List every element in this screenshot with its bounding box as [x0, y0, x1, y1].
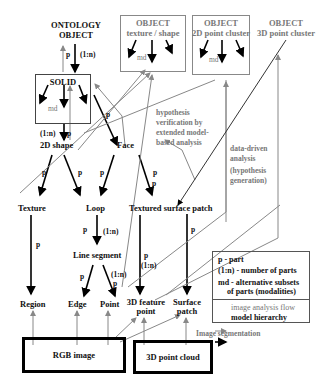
edge-label-p: p — [83, 225, 87, 235]
legend-1n: (1:n) - number of parts — [218, 266, 297, 276]
node-object-texture-line1: OBJECT — [120, 18, 186, 28]
annotation-data-driven-line4: generation) — [230, 176, 267, 186]
md-label: md — [48, 104, 58, 114]
node-ontology-object-line1: ONTOLOGY — [37, 20, 115, 30]
edge-label-1n: (1:n) — [141, 261, 156, 271]
node-ontology-object-line2: OBJECT — [37, 30, 115, 40]
annotation-data-driven-line3: (hypothesis — [230, 166, 266, 176]
node-3d-point-cloud-label: 3D point cloud — [136, 352, 210, 362]
edge-label-p: p — [113, 279, 117, 289]
edge-label-p: p — [42, 168, 46, 178]
legend-md-line2: of parts (modalities) — [227, 287, 296, 297]
node-loop: Loop — [86, 203, 105, 213]
node-line-segment: Line segment — [73, 250, 121, 260]
node-region: Region — [20, 299, 46, 309]
annotation-data-driven-line1: data-driven — [230, 144, 268, 154]
edge-label-p: p — [106, 110, 110, 120]
node-solid-label: SOLID — [35, 77, 91, 87]
annotation-hypothesis-line4: based analysis — [156, 138, 202, 148]
node-point: Point — [100, 299, 119, 309]
legend: p - part (1:n) - number of parts md - al… — [212, 251, 310, 323]
md-label: md — [209, 55, 219, 65]
legend-p: p - part — [218, 255, 244, 265]
node-surface-patch-line2: patch — [170, 306, 204, 316]
edge-label-p: p — [80, 272, 84, 282]
edge-label-1n: (1:n) — [80, 50, 95, 60]
edge-label-p: p — [66, 50, 70, 60]
edge-label-p: p — [152, 179, 156, 189]
node-object-2d-line2: 2D point cluster — [192, 28, 250, 38]
node-object-3d-line1: OBJECT — [254, 18, 318, 28]
edge-label-p: p — [191, 225, 195, 235]
node-rgb-image: RGB image — [22, 337, 126, 373]
edge-label-p: p — [78, 168, 82, 178]
node-object-3d-line2: 3D point cluster — [254, 28, 318, 38]
annotation-hypothesis-line3: extended model- — [156, 128, 209, 138]
edge-label-1n: (1:n) — [40, 129, 55, 139]
node-object-2d-line1: OBJECT — [192, 18, 250, 28]
annotation-image-segmentation: Image segmentation — [196, 329, 260, 339]
node-rgb-image-label: RGB image — [25, 350, 123, 360]
node-2d-shape: 2D shape — [40, 140, 73, 150]
node-textured-surface-patch: Textured surface patch — [129, 203, 213, 213]
node-edge: Edge — [68, 299, 86, 309]
md-label: md — [137, 53, 147, 63]
node-object-texture-line2: texture / shape — [120, 28, 186, 38]
node-3d-point-cloud: 3D point cloud — [133, 340, 213, 374]
legend-divider — [213, 299, 309, 300]
annotation-hypothesis-line1: hypothesis — [156, 108, 190, 118]
node-3d-feature-point-line2: point — [126, 306, 166, 316]
node-texture: Texture — [18, 203, 46, 213]
edge-label-p: p — [100, 168, 104, 178]
edge-label-p: p — [153, 168, 157, 178]
edge-label-1n: (1:n) — [103, 227, 118, 237]
edge-label-p: p — [67, 129, 71, 139]
edge-label-p: p — [144, 251, 148, 261]
annotation-hypothesis-line2: verification by — [156, 118, 202, 128]
edge-label-p: p — [36, 240, 40, 250]
legend-model-hierarchy: model hierarchy — [231, 313, 287, 323]
node-face: Face — [117, 140, 134, 150]
annotation-data-driven-line2: analysis — [230, 154, 255, 164]
legend-image-analysis-flow: image analysis flow — [231, 303, 295, 313]
